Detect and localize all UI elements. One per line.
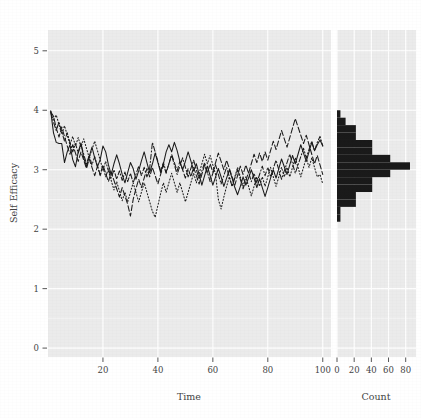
panel-count: [337, 30, 416, 357]
histogram-bar: [337, 192, 356, 199]
x-axis-label-time: Time: [177, 391, 201, 402]
histogram-bar: [337, 155, 390, 162]
histogram-bar: [337, 162, 410, 169]
histogram-bar: [337, 147, 372, 154]
chart-figure: 012345 20406080100 020406080 Self Effica…: [0, 0, 421, 418]
y-tick-label: 4: [34, 105, 39, 115]
histogram-bar: [337, 140, 372, 147]
x-tick-label: 40: [366, 365, 377, 375]
y-tick-label: 0: [34, 343, 39, 353]
histogram-bar: [337, 185, 372, 192]
x-tick-label: 20: [349, 365, 360, 375]
y-tick-label: 3: [34, 165, 39, 175]
histogram-bar: [337, 170, 390, 177]
histogram-bar: [337, 207, 340, 214]
x-tick-label: 40: [152, 365, 163, 375]
y-tick-label: 2: [34, 224, 39, 234]
histogram-bar: [337, 118, 346, 125]
histogram-bar: [337, 199, 356, 206]
histogram-bar: [337, 177, 372, 184]
x-tick-label: 80: [262, 365, 273, 375]
histogram-bar: [337, 110, 340, 117]
y-tick-label: 5: [34, 46, 39, 56]
x-tick-label: 20: [98, 365, 109, 375]
histogram-bar: [337, 125, 356, 132]
time-panel-background: [48, 30, 331, 357]
x-tick-label: 60: [383, 365, 394, 375]
x-tick-label: 0: [334, 365, 339, 375]
x-tick-label: 60: [207, 365, 218, 375]
x-tick-label: 80: [400, 365, 411, 375]
y-tick-label: 1: [34, 284, 39, 294]
x-tick-label: 100: [315, 365, 331, 375]
y-axis-label: Self Efficacy: [8, 162, 19, 223]
panel-time: [48, 30, 331, 357]
histogram-bar: [337, 133, 356, 140]
histogram-bar: [337, 214, 340, 221]
x-axis-label-count: Count: [361, 391, 390, 402]
